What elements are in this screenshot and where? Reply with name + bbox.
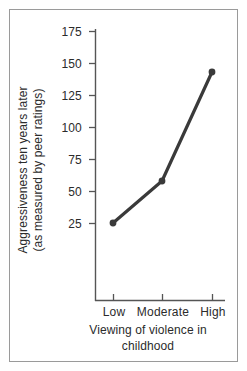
data-point-low <box>110 220 117 227</box>
x-axis-title: Viewing of violence in childhood <box>62 322 234 354</box>
data-point-moderate <box>159 178 166 185</box>
data-line-aggressiveness <box>113 72 212 223</box>
x-axis-title-line-2: childhood <box>62 338 234 354</box>
data-point-high <box>209 69 216 76</box>
x-tick-label-high: High <box>190 305 236 319</box>
x-axis-title-line-1: Viewing of violence in <box>62 322 234 338</box>
x-tick-label-moderate: Moderate <box>130 305 196 319</box>
figure-canvas: Aggressiveness ten years later (as measu… <box>0 0 247 371</box>
